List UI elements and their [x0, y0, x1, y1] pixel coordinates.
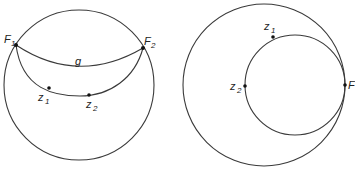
label-F2-sub: 2 [150, 41, 156, 50]
point-z2 [87, 93, 91, 97]
point-z1 [47, 86, 51, 90]
label-F1-sub: 1 [11, 39, 15, 48]
label-z2-sub: 2 [92, 104, 98, 113]
label-F: F [348, 79, 355, 91]
point-z2 [243, 84, 247, 88]
diagram-canvas: F 1 F 2 g z 1 z 2 z 1 z 2 F [0, 0, 355, 172]
right-inner-circle [245, 35, 345, 135]
label-z1-sub: 1 [271, 26, 275, 35]
point-F [343, 83, 347, 87]
left-figure: F 1 F 2 g z 1 z 2 [4, 10, 156, 160]
label-z1: z [263, 20, 270, 32]
point-z1 [271, 35, 275, 39]
left-outer-circle [4, 10, 154, 160]
right-figure: z 1 z 2 F [183, 4, 355, 166]
label-z2: z [229, 80, 236, 92]
label-z1-sub: 1 [45, 97, 49, 106]
lower-arc-through-z1-z2 [16, 45, 143, 96]
label-z2: z [85, 98, 92, 110]
label-g: g [75, 55, 82, 67]
label-z1: z [37, 91, 44, 103]
label-z2-sub: 2 [236, 86, 242, 95]
